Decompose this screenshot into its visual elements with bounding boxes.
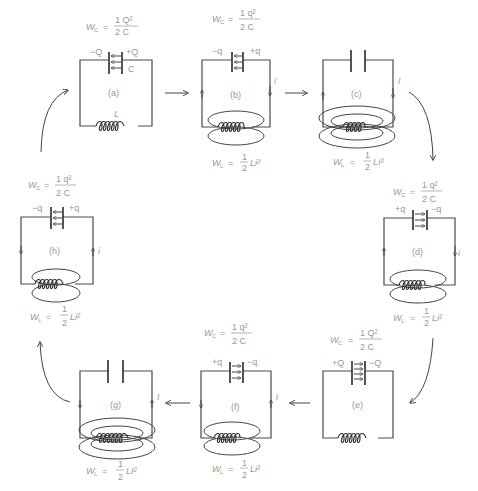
svg-text:C: C xyxy=(36,185,41,191)
svg-text:L: L xyxy=(341,162,345,168)
svg-text:(b): (b) xyxy=(230,90,241,100)
panel-label: (a) xyxy=(108,88,119,98)
svg-text:C: C xyxy=(128,64,135,74)
right-charge: +Q xyxy=(126,47,138,57)
svg-text:(c): (c) xyxy=(351,89,362,99)
svg-text:2 C: 2 C xyxy=(115,27,130,37)
energy-eq-capacitor: WC = 1 Q² 2 C xyxy=(86,15,138,37)
svg-text:2 C: 2 C xyxy=(240,22,255,32)
svg-text:=: = xyxy=(103,22,108,32)
svg-text:2: 2 xyxy=(365,162,370,172)
svg-text:+q: +q xyxy=(212,357,222,367)
svg-text:C: C xyxy=(212,333,217,339)
arrow-d-to-e-icon xyxy=(410,338,433,403)
panel-e: WC = 1 Q² 2 C +Q −Q (e) xyxy=(323,328,393,443)
svg-text:−q: −q xyxy=(247,357,257,367)
panel-c: I (c) WL = 1 2 LI² xyxy=(319,50,401,172)
svg-text:C: C xyxy=(220,19,225,25)
svg-text:Li²: Li² xyxy=(432,313,443,323)
svg-text:2: 2 xyxy=(242,470,247,480)
lc-cycle-diagram: WC = 1 Q² 2 C −Q +Q C (a) L WC = 1 q² 2 … xyxy=(0,0,478,491)
svg-text:−q: −q xyxy=(32,203,42,213)
svg-text:=: = xyxy=(44,180,49,190)
svg-text:i: i xyxy=(458,248,461,258)
svg-text:(h): (h) xyxy=(49,246,60,256)
svg-text:i: i xyxy=(274,76,277,86)
svg-text:=: = xyxy=(228,158,233,168)
svg-text:2 C: 2 C xyxy=(422,194,437,204)
panel-d: WC = 1 q² 2 C +q −q i (d) WL = 1 2 Li² xyxy=(384,180,461,328)
svg-text:L: L xyxy=(220,163,224,169)
svg-text:1 q²: 1 q² xyxy=(56,174,72,184)
panel-a: WC = 1 Q² 2 C −Q +Q C (a) L xyxy=(80,15,152,131)
svg-text:1: 1 xyxy=(118,459,123,469)
svg-text:1: 1 xyxy=(242,152,247,162)
svg-text:LI²: LI² xyxy=(373,157,385,167)
svg-text:L: L xyxy=(114,109,119,119)
svg-text:1 q²: 1 q² xyxy=(232,322,248,332)
svg-text:=: = xyxy=(348,335,353,345)
svg-text:=: = xyxy=(228,14,233,24)
svg-text:Li²: Li² xyxy=(250,464,261,474)
svg-text:2: 2 xyxy=(118,472,123,482)
svg-text:1 Q²: 1 Q² xyxy=(115,15,133,25)
svg-text:Li²: Li² xyxy=(70,312,81,322)
svg-text:1 q²: 1 q² xyxy=(240,8,256,18)
svg-text:=: = xyxy=(410,187,415,197)
svg-text:=: = xyxy=(410,313,415,323)
svg-text:L: L xyxy=(94,471,98,477)
svg-text:2: 2 xyxy=(242,163,247,173)
panel-f: WC = 1 q² 2 C +q −q i (f) WL = 1 2 Li² xyxy=(201,322,279,480)
svg-text:1: 1 xyxy=(365,150,370,160)
svg-text:=: = xyxy=(228,464,233,474)
svg-text:L: L xyxy=(38,317,42,323)
svg-text:−q: −q xyxy=(212,46,222,56)
svg-text:+q: +q xyxy=(395,204,405,214)
svg-text:LI²: LI² xyxy=(126,466,138,476)
inductor-icon xyxy=(96,122,124,131)
svg-text:(e): (e) xyxy=(352,400,363,410)
svg-text:L: L xyxy=(401,318,405,324)
svg-text:i: i xyxy=(276,392,279,402)
svg-text:C: C xyxy=(338,340,343,346)
svg-text:C: C xyxy=(94,27,99,33)
arrow-c-to-d-icon xyxy=(409,92,433,160)
svg-text:I: I xyxy=(157,392,160,402)
arrow-h-to-a-icon xyxy=(41,90,68,152)
svg-text:1: 1 xyxy=(424,306,429,316)
svg-text:=: = xyxy=(46,312,51,322)
svg-text:I: I xyxy=(398,76,401,86)
svg-text:=: = xyxy=(220,328,225,338)
svg-text:+q: +q xyxy=(69,203,79,213)
svg-text:2 C: 2 C xyxy=(232,336,247,346)
arrow-g-to-h-icon xyxy=(40,342,70,402)
svg-text:C: C xyxy=(401,192,406,198)
svg-text:−Q: −Q xyxy=(369,358,381,368)
svg-text:1: 1 xyxy=(62,304,67,314)
panel-h: WC = 1 q² 2 C −q +q i (h) WL = 1 2 Li² xyxy=(21,174,101,328)
svg-text:=: = xyxy=(102,466,107,476)
svg-text:(f): (f) xyxy=(231,402,240,412)
left-charge: −Q xyxy=(90,47,102,57)
svg-text:2: 2 xyxy=(62,318,67,328)
svg-text:Li²: Li² xyxy=(250,158,261,168)
panel-b: WC = 1 q² 2 C −q +q i (b) WL = 1 2 Li² xyxy=(202,8,277,173)
svg-text:+Q: +Q xyxy=(332,358,344,368)
svg-text:(d): (d) xyxy=(412,247,423,257)
svg-text:−q: −q xyxy=(431,204,441,214)
svg-text:2 C: 2 C xyxy=(360,342,375,352)
svg-text:2 C: 2 C xyxy=(56,188,71,198)
svg-text:=: = xyxy=(350,157,355,167)
panel-g: I (g) WL = 1 2 LI² xyxy=(79,360,160,482)
svg-text:1: 1 xyxy=(242,458,247,468)
svg-text:2: 2 xyxy=(424,318,429,328)
svg-text:(g): (g) xyxy=(110,400,121,410)
svg-text:i: i xyxy=(98,246,101,256)
svg-text:L: L xyxy=(220,469,224,475)
svg-text:1 q²: 1 q² xyxy=(422,180,438,190)
svg-text:+q: +q xyxy=(250,46,260,56)
svg-text:1 Q²: 1 Q² xyxy=(360,328,378,338)
